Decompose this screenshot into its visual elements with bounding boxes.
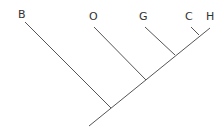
taxon-label-c: C xyxy=(185,11,193,22)
taxon-label-o: O xyxy=(89,11,98,22)
cladogram: B O G C H xyxy=(0,0,223,128)
taxon-label-g: G xyxy=(139,11,148,22)
branch-o xyxy=(94,27,146,80)
branch-b xyxy=(25,22,111,108)
taxon-label-h: H xyxy=(206,11,214,22)
trunk-line xyxy=(89,28,210,126)
branch-c xyxy=(191,27,199,35)
branch-g xyxy=(145,27,175,55)
taxon-label-b: B xyxy=(18,9,26,20)
